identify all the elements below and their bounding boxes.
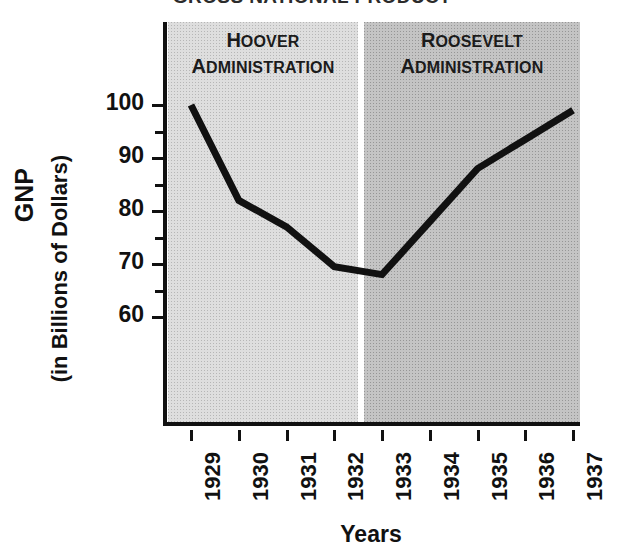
- gnp-line-series: [191, 105, 573, 275]
- data-line-layer: [0, 0, 624, 557]
